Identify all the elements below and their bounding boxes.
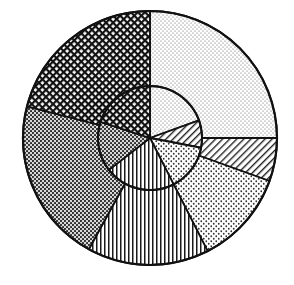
pie-chart-canvas <box>0 0 294 285</box>
nested-pie-chart <box>0 0 294 285</box>
